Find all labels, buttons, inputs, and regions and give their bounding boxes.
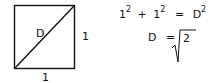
equation-solution: D =: [148, 32, 175, 43]
solution-lhs: D: [148, 31, 156, 44]
term-c: D: [193, 8, 201, 21]
exp-c: 2: [201, 5, 206, 14]
radicand: 2: [183, 33, 190, 44]
diagonal-line: [15, 6, 74, 68]
equals-sign: =: [175, 8, 184, 21]
bottom-side-label: 1: [42, 72, 49, 83]
plus-sign: +: [138, 8, 147, 21]
solution-equals: =: [166, 31, 175, 44]
exp-b: 2: [160, 5, 165, 14]
diagonal-label: D: [36, 28, 44, 39]
equation-pythagoras: 12 + 12 = D2: [119, 9, 206, 20]
right-side-label: 1: [82, 31, 89, 42]
exp-a: 2: [126, 5, 131, 14]
term-a: 1: [119, 8, 126, 21]
